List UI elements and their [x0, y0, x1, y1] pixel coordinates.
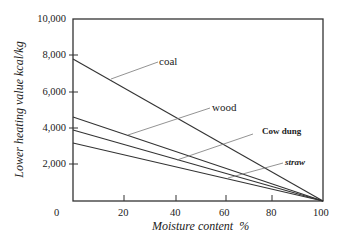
label-cowdung: Cow dung: [262, 126, 301, 136]
x-tick-20: 20: [118, 207, 129, 218]
y-tick-10000: 10,000: [37, 13, 66, 24]
y-tick-4000: 4,000: [42, 122, 66, 133]
label-straw: straw: [285, 157, 305, 167]
x-ticks: [124, 195, 272, 201]
y-axis-title: Lower heating value kcal/kg: [12, 30, 27, 190]
plot-frame: [73, 19, 323, 201]
label-wood: wood: [212, 101, 236, 113]
y-tick-6000: 6,000: [42, 86, 66, 97]
x-tick-100: 100: [313, 207, 329, 218]
x-tick-0: 0: [54, 207, 59, 218]
x-tick-60: 60: [219, 207, 230, 218]
y-tick-8000: 8,000: [42, 49, 66, 60]
series-straw-line: [73, 143, 323, 201]
x-tick-80: 80: [266, 207, 277, 218]
y-tick-2000: 2,000: [42, 158, 66, 169]
label-coal: coal: [159, 55, 177, 67]
x-tick-40: 40: [170, 207, 181, 218]
leader-lines: [111, 62, 283, 178]
x-axis-title: Moisture content %: [152, 219, 249, 234]
